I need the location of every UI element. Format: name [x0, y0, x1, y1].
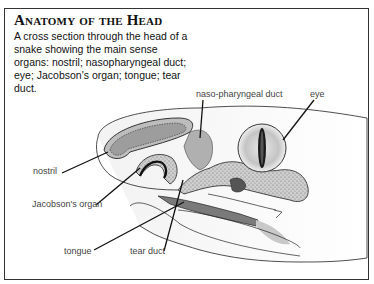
label-eye: eye — [310, 89, 325, 99]
label-nostril: nostril — [33, 166, 57, 176]
snake-head-cross-section-illustration — [0, 0, 374, 284]
label-jacobsons-organ: Jacobson's organ — [32, 199, 102, 209]
leader-nostril — [62, 152, 108, 173]
label-tongue: tongue — [64, 246, 92, 256]
label-tear-duct: tear duct — [130, 246, 165, 256]
eye — [238, 124, 286, 172]
label-naso-pharyngeal-duct: naso-pharyngeal duct — [196, 89, 283, 99]
